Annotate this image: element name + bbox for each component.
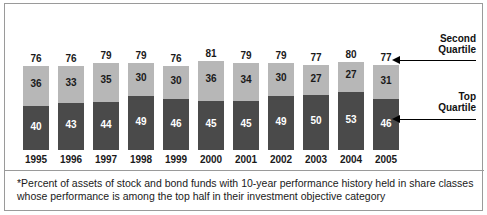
x-axis-tick-label: 1995 (25, 154, 47, 166)
legend-second-quartile: Second Quartile (390, 33, 476, 55)
legend-top-quartile-line2: Quartile (390, 102, 476, 113)
bar-stack: 3046 (163, 66, 189, 150)
bar-segment-value: 49 (135, 115, 146, 126)
bar-segment-second-quartile: 36 (198, 61, 224, 101)
bar-segment-value: 30 (170, 75, 181, 86)
bar-segment-value: 46 (380, 117, 391, 128)
bar-segment-top-quartile: 40 (23, 106, 49, 150)
bar-segment-top-quartile: 50 (303, 95, 329, 150)
bar-segment-second-quartile: 30 (268, 63, 294, 96)
bar-total-label: 80 (345, 49, 356, 60)
bar-stack: 3049 (268, 63, 294, 150)
x-axis-tick-label: 1996 (60, 154, 82, 166)
plot-area: 7636401995763343199679354419977930491998… (5, 4, 484, 167)
bar-group: 7935441997 (93, 4, 119, 167)
bar-segment-value: 27 (310, 72, 321, 83)
bar-segment-top-quartile: 45 (198, 101, 224, 151)
bar-segment-value: 35 (100, 74, 111, 85)
bar-stack: 3544 (93, 63, 119, 150)
bar-stack: 3640 (23, 66, 49, 150)
arrow-head (392, 115, 400, 123)
bar-stack: 2750 (303, 65, 329, 150)
bar-total-label: 79 (100, 50, 111, 61)
x-axis-tick-label: 1997 (95, 154, 117, 166)
bar-segment-top-quartile: 49 (128, 96, 154, 150)
bar-segment-top-quartile: 46 (163, 99, 189, 150)
bar-total-label: 76 (30, 53, 41, 64)
legend-second-quartile-line2: Quartile (390, 44, 476, 55)
bar-segment-value: 36 (30, 78, 41, 89)
legend-second-quartile-line1: Second (390, 33, 476, 44)
bar-segment-value: 27 (345, 69, 356, 80)
bar-stack: 3049 (128, 63, 154, 150)
bar-total-label: 79 (135, 50, 146, 61)
bar-segment-second-quartile: 35 (93, 63, 119, 102)
bar-segment-second-quartile: 30 (163, 66, 189, 99)
bar-total-label: 81 (205, 48, 216, 59)
bar-segment-value: 36 (205, 72, 216, 83)
bar-segment-value: 31 (380, 74, 391, 85)
bar-segment-top-quartile: 53 (338, 92, 364, 150)
bar-total-label: 79 (275, 50, 286, 61)
legend-top-quartile-arrow-icon (392, 115, 476, 124)
bar-segment-value: 44 (100, 118, 111, 129)
bar-segment-top-quartile: 43 (58, 103, 84, 150)
bar-segment-value: 33 (65, 76, 76, 87)
bar-total-label: 79 (240, 50, 251, 61)
bar-stack: 3445 (233, 63, 259, 150)
legend-top-quartile: Top Quartile (390, 91, 476, 113)
legend-second-quartile-arrow-icon (392, 56, 476, 65)
footnote-divider (5, 170, 484, 171)
bar-segment-value: 40 (30, 121, 41, 132)
bar-segment-value: 50 (310, 115, 321, 126)
bar-group: 8136452000 (198, 4, 224, 167)
bar-group: 7636401995 (23, 4, 49, 167)
x-axis-tick-label: 1998 (130, 154, 152, 166)
bar-segment-second-quartile: 36 (23, 66, 49, 106)
x-axis-tick-label: 2005 (375, 154, 397, 166)
bar-segment-value: 49 (275, 115, 286, 126)
bar-total-label: 76 (170, 53, 181, 64)
x-axis-tick-label: 2000 (200, 154, 222, 166)
bar-segment-value: 45 (240, 118, 251, 129)
x-axis-tick-label: 2002 (270, 154, 292, 166)
bar-segment-top-quartile: 44 (93, 102, 119, 150)
bar-segment-value: 30 (275, 71, 286, 82)
x-axis-tick-label: 2001 (235, 154, 257, 166)
x-axis-tick-label: 2004 (340, 154, 362, 166)
bar-stack: 3343 (58, 66, 84, 150)
bar-group: 7934452001 (233, 4, 259, 167)
bar-group: 7633431996 (58, 4, 84, 167)
stacked-bar-chart-figure: 7636401995763343199679354419977930491998… (0, 0, 487, 215)
bar-stack: 3645 (198, 61, 224, 150)
bar-group: 8027532004 (338, 4, 364, 167)
bar-segment-value: 43 (65, 119, 76, 130)
bar-group: 7930491998 (128, 4, 154, 167)
bar-segment-second-quartile: 33 (58, 66, 84, 102)
bar-total-label: 77 (310, 52, 321, 63)
bar-segment-value: 53 (345, 113, 356, 124)
bar-group: 7727502003 (303, 4, 329, 167)
bar-series-container: 7636401995763343199679354419977930491998… (13, 4, 398, 167)
bar-group: 7731462005 (373, 4, 399, 167)
chart-frame: 7636401995763343199679354419977930491998… (4, 3, 483, 211)
bar-segment-value: 46 (170, 117, 181, 128)
bar-segment-second-quartile: 27 (303, 65, 329, 95)
arrow-shaft (399, 60, 476, 61)
bar-total-label: 76 (65, 53, 76, 64)
bar-group: 7630461999 (163, 4, 189, 167)
bar-segment-top-quartile: 49 (268, 96, 294, 150)
x-axis-tick-label: 1999 (165, 154, 187, 166)
bar-segment-second-quartile: 34 (233, 63, 259, 100)
footnote-text: *Percent of assets of stock and bond fun… (17, 177, 477, 203)
arrow-head (392, 56, 400, 64)
arrow-shaft (399, 119, 476, 120)
bar-segment-value: 30 (135, 71, 146, 82)
x-axis-tick-label: 2003 (305, 154, 327, 166)
bar-segment-second-quartile: 27 (338, 62, 364, 92)
bar-segment-top-quartile: 45 (233, 101, 259, 151)
bar-segment-second-quartile: 30 (128, 63, 154, 96)
bar-segment-value: 45 (205, 118, 216, 129)
legend-top-quartile-line1: Top (390, 91, 476, 102)
bar-segment-value: 34 (240, 73, 251, 84)
